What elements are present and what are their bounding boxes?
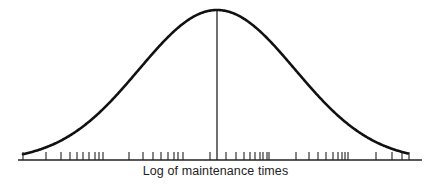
bell-curve [23, 10, 408, 154]
x-axis-ticks [23, 152, 409, 160]
x-axis-label: Log of maintenance times [0, 164, 431, 178]
lognormal-diagram [0, 0, 431, 185]
